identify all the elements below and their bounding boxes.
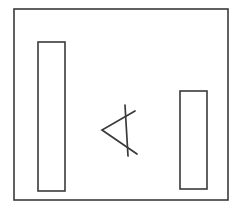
canvas-background	[0, 0, 239, 215]
drawing-canvas	[0, 0, 239, 215]
line-drawing	[0, 0, 239, 215]
